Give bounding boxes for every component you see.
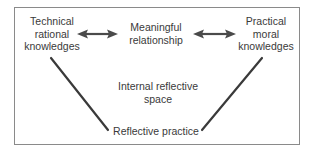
double-arrow-icon-right: [193, 30, 236, 39]
node-label-line: knowledges: [18, 40, 86, 53]
node-label-line: Internal reflective: [112, 80, 204, 93]
node-meaningful-relationship: Meaningful relationship: [118, 21, 194, 46]
node-reflective-practice: Reflective practice: [106, 125, 206, 138]
node-label-line: Technical: [18, 15, 86, 28]
node-technical-rational-knowledges: Technical rational knowledges: [18, 15, 86, 53]
node-internal-reflective-space: Internal reflective space: [112, 80, 204, 105]
node-label-line: Practical: [234, 15, 298, 28]
node-label-line: Reflective practice: [106, 125, 206, 138]
node-label-line: knowledges: [234, 40, 298, 53]
node-label-line: relationship: [118, 34, 194, 47]
node-practical-moral-knowledges: Practical moral knowledges: [234, 15, 298, 53]
node-label-line: moral: [234, 28, 298, 41]
node-label-line: rational: [18, 28, 86, 41]
node-label-line: Meaningful: [118, 21, 194, 34]
edge-line-left: [51, 58, 108, 130]
edge-line-right: [202, 58, 262, 130]
node-label-line: space: [112, 93, 204, 106]
